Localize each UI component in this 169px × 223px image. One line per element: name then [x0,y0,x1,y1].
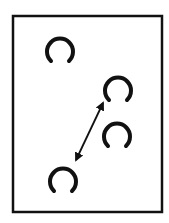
landolt-c-1 [47,39,73,61]
landolt-c-4 [50,169,76,191]
landolt-c-2 [105,78,131,100]
double-arrow [76,103,103,160]
diagram-canvas [0,0,169,223]
landolt-c-3 [104,124,130,146]
frame-border [13,16,162,212]
